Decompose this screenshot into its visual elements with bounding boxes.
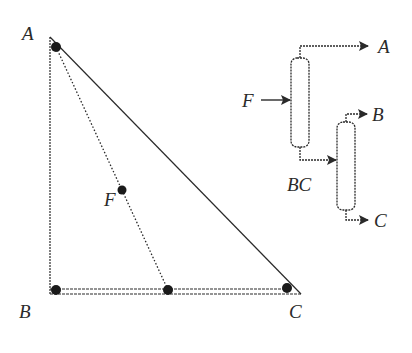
- feed-point-label: F: [103, 189, 116, 210]
- point-bc: [163, 285, 173, 295]
- vertex-b-label: B: [19, 301, 31, 322]
- point-c: [282, 283, 292, 293]
- flowsheet-feed-label: F: [241, 90, 254, 111]
- product-a-arrow: [300, 46, 368, 58]
- composition-points: [51, 42, 292, 295]
- flowsheet: [261, 46, 368, 220]
- product-b-arrow: [346, 114, 367, 122]
- point-b: [51, 285, 61, 295]
- edge-ac: [50, 37, 301, 294]
- product-c-arrow: [346, 210, 368, 220]
- flowsheet-bc-label: BC: [287, 174, 312, 195]
- flowsheet-product-c-label: C: [374, 210, 387, 231]
- point-f: [118, 186, 127, 195]
- tie-line-a-bc: [56, 47, 168, 290]
- flowsheet-product-a-label: A: [376, 36, 390, 57]
- column-1: [291, 58, 309, 147]
- column-2: [337, 122, 355, 210]
- vertex-a-label: A: [20, 23, 34, 44]
- flowsheet-product-b-label: B: [372, 104, 384, 125]
- bc-stream-arrow: [300, 147, 336, 160]
- ternary-diagram: A F B C A F BC B C: [0, 0, 412, 353]
- point-a: [51, 42, 61, 52]
- vertex-c-label: C: [289, 301, 302, 322]
- triangle: [50, 37, 301, 294]
